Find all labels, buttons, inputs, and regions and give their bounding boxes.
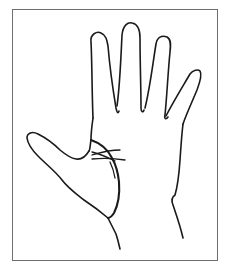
index-finger-outline xyxy=(91,32,119,118)
middle-finger-outline xyxy=(117,23,144,112)
hand-illustration xyxy=(0,0,229,272)
little-finger-outline xyxy=(166,70,201,124)
palm-right-edge xyxy=(172,124,183,238)
palm-left-edge xyxy=(89,118,93,151)
ring-finger-outline xyxy=(145,36,171,118)
